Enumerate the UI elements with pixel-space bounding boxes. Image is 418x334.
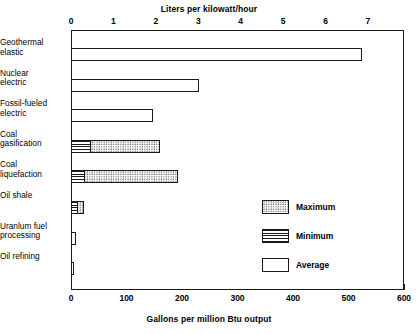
top-tick-label-3: 3 bbox=[196, 16, 201, 26]
category-label-line1: Oil shale bbox=[0, 191, 66, 201]
top-tick-label-2: 2 bbox=[153, 16, 158, 26]
bottom-axis-title: Gallons per million Btu output bbox=[0, 314, 418, 324]
category-label-line2: liquefaction bbox=[0, 170, 66, 180]
bottom-tick-600 bbox=[404, 284, 405, 290]
bottom-tick-label-400: 400 bbox=[286, 293, 300, 303]
legend-label-average: Average bbox=[296, 260, 329, 270]
legend-swatch-minimum bbox=[262, 229, 289, 243]
legend-swatch-maximum bbox=[262, 200, 289, 214]
top-tick-label-6: 6 bbox=[323, 16, 328, 26]
category-label-line2: processing bbox=[0, 231, 66, 241]
category-label-3: Coalgasification bbox=[0, 130, 66, 149]
category-label-7: Oil refining bbox=[0, 252, 66, 262]
legend-swatch-average bbox=[262, 258, 289, 272]
bar-average-7 bbox=[71, 262, 74, 275]
bar-minimum-5 bbox=[71, 201, 78, 214]
category-label-4: Coalliquefaction bbox=[0, 160, 66, 179]
bottom-tick-label-600: 600 bbox=[397, 293, 411, 303]
top-tick-label-1: 1 bbox=[111, 16, 116, 26]
bottom-tick-label-500: 500 bbox=[341, 293, 355, 303]
bar-minimum-4 bbox=[71, 170, 85, 183]
bar-average-0 bbox=[71, 48, 362, 61]
category-label-line1: Oil refining bbox=[0, 252, 66, 262]
bottom-tick-label-100: 100 bbox=[119, 293, 133, 303]
plot-area bbox=[71, 30, 404, 290]
category-label-5: Oil shale bbox=[0, 191, 66, 201]
top-tick-label-5: 5 bbox=[281, 16, 286, 26]
category-label-line2: electric bbox=[0, 109, 66, 119]
category-label-1: Nuclearelectric bbox=[0, 69, 66, 88]
legend-label-maximum: Maximum bbox=[296, 202, 335, 212]
bottom-tick-label-300: 300 bbox=[230, 293, 244, 303]
bar-average-6 bbox=[71, 232, 76, 245]
bar-average-1 bbox=[71, 79, 199, 92]
category-label-2: Fossil-fueledelectric bbox=[0, 99, 66, 118]
legend-label-minimum: Minimum bbox=[296, 231, 333, 241]
horizontal-bar-chart: Liters per kilowatt/hour 01234567 010020… bbox=[0, 0, 418, 334]
bar-minimum-3 bbox=[71, 140, 91, 153]
category-label-6: Uranlum fuelprocessing bbox=[0, 222, 66, 241]
bar-maximum-4 bbox=[71, 170, 178, 183]
bottom-tick-label-200: 200 bbox=[175, 293, 189, 303]
top-tick-label-0: 0 bbox=[69, 16, 74, 26]
top-tick-label-4: 4 bbox=[238, 16, 243, 26]
category-label-line2: elastic bbox=[0, 48, 66, 58]
bar-average-2 bbox=[71, 109, 153, 122]
category-label-0: Geothermalelastic bbox=[0, 38, 66, 57]
category-label-line2: electric bbox=[0, 78, 66, 88]
bottom-tick-label-0: 0 bbox=[69, 293, 74, 303]
category-label-line2: gasification bbox=[0, 139, 66, 149]
top-tick-label-7: 7 bbox=[366, 16, 371, 26]
top-axis-title: Liters per kilowatt/hour bbox=[0, 4, 418, 14]
